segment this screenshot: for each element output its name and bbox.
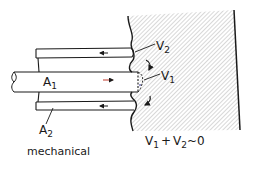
outer-tube-upper-wall — [36, 48, 133, 72]
mechanical-contact-diagram: V2 V1 A1 A2 mechanical V1+V2~0 — [0, 0, 253, 169]
outer-tube-lower-wall — [36, 92, 134, 110]
label-a1: A1 — [43, 75, 57, 91]
hatched-region — [128, 10, 240, 131]
label-a2: A2 — [39, 123, 53, 139]
equation: V1+V2~0 — [145, 134, 205, 150]
solid-body — [128, 10, 240, 131]
caption-mechanical: mechanical — [27, 145, 90, 158]
inner-rod — [12, 72, 138, 92]
rod-break-mark — [12, 72, 17, 92]
